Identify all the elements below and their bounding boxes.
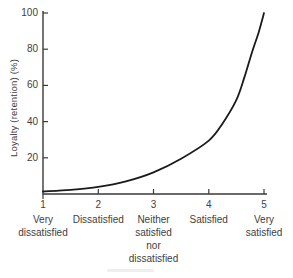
- y-tick-label-60: 60: [4, 79, 38, 91]
- x-tick-label-5: 5: [244, 199, 284, 210]
- x-category-label-3-line4: dissatisfied: [107, 253, 201, 265]
- x-tick-label-4: 4: [189, 199, 229, 210]
- x-tick-label-1: 1: [23, 199, 63, 210]
- cropped-text-fragment: [107, 269, 154, 272]
- y-tick-label-100: 100: [4, 7, 38, 19]
- y-tick-label-20: 20: [4, 152, 38, 164]
- x-category-label-5-line2: satisfied: [217, 227, 293, 239]
- x-category-label-3-line2: satisfied: [107, 227, 201, 239]
- x-category-label-1-line2: dissatisfied: [0, 227, 90, 239]
- loyalty-curve: [43, 13, 264, 192]
- axes-lines: [43, 11, 267, 194]
- x-category-label-5-line1: Very: [217, 214, 293, 226]
- x-category-label-3-line3: nor: [107, 240, 201, 252]
- x-tick-label-3: 3: [134, 199, 174, 210]
- y-tick-label-80: 80: [4, 43, 38, 55]
- y-tick-label-40: 40: [4, 116, 38, 128]
- satisfaction-loyalty-chart: Loyalty (retention) (%) 2040608010012345…: [0, 0, 293, 278]
- x-tick-label-2: 2: [78, 199, 118, 210]
